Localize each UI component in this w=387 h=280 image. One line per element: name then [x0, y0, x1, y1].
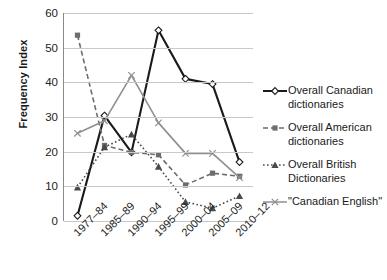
legend-marker-filled-triangle-icon	[262, 158, 288, 172]
y-tick-30: 30	[30, 111, 58, 123]
y-tick-40: 40	[30, 76, 58, 88]
gridline-60	[64, 13, 253, 14]
legend-item-2[interactable]: Overall BritishDictionaries	[262, 158, 387, 185]
legend-label-2: Overall BritishDictionaries	[288, 158, 387, 185]
legend-label-line2: Dictionaries	[288, 172, 387, 186]
legend-marker-filled-square-icon	[262, 121, 288, 135]
legend-item-1[interactable]: Overall Americandictionaries	[262, 121, 387, 148]
y-axis-tick-labels: 0102030405060	[30, 0, 58, 280]
legend-item-0[interactable]: Overall Canadiandictionaries	[262, 84, 387, 111]
legend-marker-cross-x-icon	[262, 195, 288, 209]
legend-label-line1: Overall British	[288, 158, 387, 172]
line-chart: Frequency Index 0102030405060 1977–84198…	[0, 0, 387, 280]
gridline-40	[64, 82, 253, 83]
plot-area	[63, 13, 252, 221]
gridline-50	[64, 48, 253, 49]
legend-label-line2: dictionaries	[288, 135, 387, 149]
legend-label-line1: "Canadian English"	[288, 195, 387, 209]
series-2	[74, 131, 243, 212]
gridline-20	[64, 152, 253, 153]
legend-marker-open-diamond-icon	[262, 84, 288, 98]
y-tick-0: 0	[30, 215, 58, 227]
y-tick-20: 20	[30, 146, 58, 158]
legend-label-line1: Overall Canadian	[288, 84, 387, 98]
chart-legend: Overall CanadiandictionariesOverall Amer…	[262, 84, 387, 219]
legend-item-3[interactable]: "Canadian English"	[262, 195, 387, 209]
x-axis-tick-labels: 1977–841985–891990–941995–992000–042005–…	[63, 224, 263, 280]
legend-label-0: Overall Canadiandictionaries	[288, 84, 387, 111]
y-axis-title: Frequency Index	[17, 29, 29, 139]
gridline-10	[64, 186, 253, 187]
y-tick-10: 10	[30, 180, 58, 192]
legend-label-1: Overall Americandictionaries	[288, 121, 387, 148]
legend-label-line2: dictionaries	[288, 98, 387, 112]
legend-label-line1: Overall American	[288, 121, 387, 135]
y-tick-50: 50	[30, 42, 58, 54]
gridline-30	[64, 117, 253, 118]
y-tick-60: 60	[30, 7, 58, 19]
legend-label-3: "Canadian English"	[288, 195, 387, 209]
